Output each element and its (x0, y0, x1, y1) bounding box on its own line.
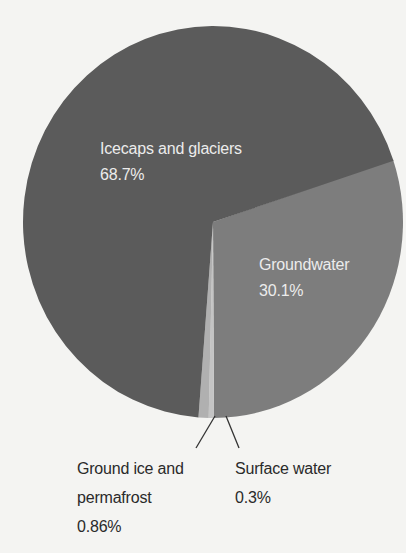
label-groundwater: Groundwater 30.1% (259, 252, 349, 304)
label-groundwater-name: Groundwater (259, 252, 349, 278)
label-icecaps: Icecaps and glaciers 68.7% (100, 136, 242, 188)
leader-line-surface-water (226, 416, 239, 448)
label-ground-ice-name-1: Ground ice and (77, 454, 184, 483)
label-icecaps-value: 68.7% (100, 162, 242, 188)
label-ground-ice-value: 0.86% (77, 512, 184, 541)
label-surface-water-value: 0.3% (235, 483, 331, 512)
label-icecaps-name: Icecaps and glaciers (100, 136, 242, 162)
label-ground-ice-name-2: permafrost (77, 483, 184, 512)
label-surface-water-name: Surface water (235, 454, 331, 483)
label-surface-water: Surface water 0.3% (235, 454, 331, 512)
label-groundwater-value: 30.1% (259, 278, 349, 304)
label-ground-ice: Ground ice and permafrost 0.86% (77, 454, 184, 541)
leader-line-ground-ice (196, 416, 215, 448)
